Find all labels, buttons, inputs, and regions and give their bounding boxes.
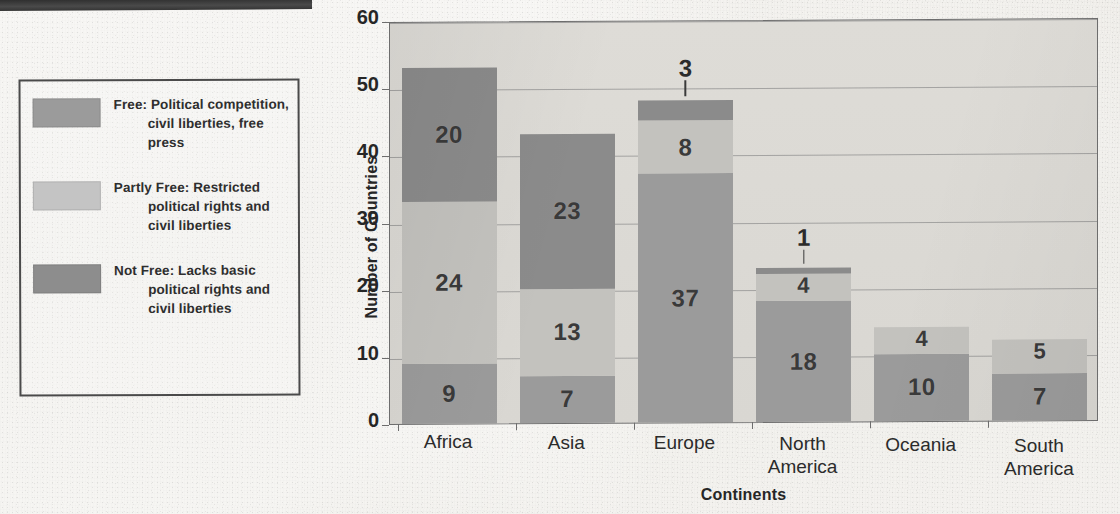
segment-partly-free[interactable]: 13: [520, 288, 615, 376]
x-tick-label-asia: Asia: [507, 431, 625, 454]
y-tick-label-0: 0: [333, 409, 379, 432]
callout-leader-line: [685, 80, 687, 96]
x-tick-label-line: America: [744, 455, 862, 478]
bar-value-label: 10: [908, 375, 936, 399]
segment-free[interactable]: 10: [874, 354, 969, 422]
y-tick-label-50: 50: [333, 73, 379, 96]
x-tick-label-line: Oceania: [862, 433, 980, 456]
bar-value-label: 9: [442, 381, 456, 405]
bar-value-label: 7: [560, 387, 574, 411]
y-tick-mark-0: [382, 425, 389, 426]
x-tick-mark: [988, 421, 989, 428]
bar-value-label: 13: [553, 320, 581, 344]
x-tick-label-line: North: [744, 432, 862, 455]
y-tick-mark-30: [382, 224, 389, 225]
x-tick-label-north-america: NorthAmerica: [744, 432, 862, 478]
y-tick-label-30: 30: [333, 207, 379, 230]
x-tick-label-europe: Europe: [625, 431, 743, 454]
segment-partly-free[interactable]: 4: [874, 327, 969, 354]
y-tick-label-20: 20: [333, 274, 379, 297]
x-tick-label-africa: Africa: [389, 430, 507, 453]
y-tick-mark-20: [382, 291, 389, 292]
x-axis-tick-labels: AfricaAsiaEuropeNorthAmericaOceaniaSouth…: [389, 430, 1098, 486]
y-tick-label-10: 10: [333, 342, 379, 365]
bar-value-label: 20: [435, 123, 463, 147]
bar-value-label: 24: [435, 271, 463, 295]
segment-free[interactable]: 18: [756, 301, 851, 422]
x-tick-label-line: South: [980, 434, 1098, 457]
bar-value-label: 5: [1034, 341, 1047, 363]
bar-value-label: 4: [915, 328, 928, 350]
bar-value-label: 23: [553, 199, 581, 223]
bar-value-label: 8: [678, 135, 692, 159]
y-tick-mark-10: [382, 358, 389, 359]
bar-value-callout: 3: [679, 56, 692, 80]
bar-africa[interactable]: 92420: [402, 67, 497, 423]
segment-free[interactable]: 9: [402, 363, 497, 424]
bar-europe[interactable]: 3783: [638, 100, 733, 423]
segment-partly-free[interactable]: 4: [756, 274, 851, 301]
bar-asia[interactable]: 71323: [520, 134, 615, 423]
stacked-bar-chart: Number of Countries 92420713233783184110…: [0, 0, 1120, 514]
segment-not-free[interactable]: 23: [520, 134, 615, 289]
x-tick-label-line: Africa: [389, 430, 507, 453]
callout-leader-line: [803, 249, 805, 263]
callout-europe: 3: [679, 56, 692, 96]
bar-value-label: 4: [797, 275, 810, 297]
segment-not-free[interactable]: 20: [402, 67, 497, 202]
x-tick-label-line: Asia: [507, 431, 625, 454]
x-tick-label-south-america: SouthAmerica: [980, 434, 1098, 480]
segment-partly-free[interactable]: 8: [638, 120, 733, 174]
x-tick-label-oceania: Oceania: [862, 433, 980, 456]
bar-oceania[interactable]: 104: [874, 327, 969, 422]
x-tick-mark: [634, 423, 635, 430]
y-tick-mark-40: [382, 156, 389, 157]
segment-free[interactable]: 7: [520, 376, 615, 424]
x-axis-title: Continents: [389, 486, 1098, 504]
x-tick-label-line: Europe: [625, 431, 743, 454]
bar-value-label: 37: [672, 286, 700, 310]
bar-north-america[interactable]: 1841: [756, 267, 851, 422]
bar-value-label: 18: [790, 349, 818, 373]
segment-partly-free[interactable]: 24: [402, 202, 497, 364]
plot-area: 92420713233783184110475: [389, 18, 1098, 425]
x-tick-mark: [752, 422, 753, 429]
y-tick-label-40: 40: [333, 140, 379, 163]
bar-value-callout: 1: [797, 225, 810, 249]
segment-not-free[interactable]: 1: [756, 267, 851, 274]
x-tick-label-line: America: [980, 457, 1098, 480]
y-tick-label-60: 60: [333, 6, 379, 29]
bar-group: 92420713233783184110475: [390, 19, 1097, 424]
segment-free[interactable]: 7: [992, 373, 1087, 421]
bar-south-america[interactable]: 75: [992, 340, 1087, 421]
x-tick-mark: [870, 421, 871, 428]
bar-value-label: 7: [1033, 385, 1047, 409]
segment-free[interactable]: 37: [638, 174, 733, 423]
segment-partly-free[interactable]: 5: [992, 340, 1087, 374]
y-tick-mark-50: [382, 89, 389, 90]
segment-not-free[interactable]: 3: [638, 100, 733, 121]
callout-north-america: 1: [797, 225, 810, 263]
y-tick-mark-60: [382, 22, 389, 23]
